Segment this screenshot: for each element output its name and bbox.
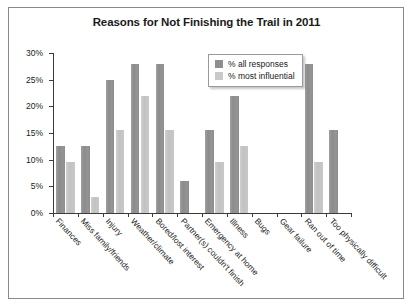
- bar: [230, 96, 239, 213]
- x-axis-tick: [351, 213, 352, 217]
- bar: [106, 80, 115, 213]
- bar: [116, 130, 125, 213]
- x-axis-category-label: Weather/climate: [129, 216, 177, 267]
- y-axis-tick: 15%: [49, 133, 53, 134]
- y-axis-tick-label: 10%: [26, 155, 43, 165]
- legend-swatch-icon: [215, 72, 223, 80]
- x-axis-category-label: Bugs: [253, 216, 273, 237]
- y-axis-tick: 10%: [49, 160, 53, 161]
- bar: [66, 162, 75, 213]
- chart-legend: % all responses % most influential: [208, 54, 303, 87]
- y-axis-tick: 25%: [49, 80, 53, 81]
- bar: [205, 130, 214, 213]
- bar: [81, 146, 90, 213]
- y-axis-tick: 20%: [49, 106, 53, 107]
- legend-item-all-responses: % all responses: [215, 59, 295, 69]
- x-axis-labels: FinancesMiss family/friendsInjuryWeather…: [53, 216, 351, 304]
- y-axis-tick-label: 5%: [31, 181, 43, 191]
- bar: [329, 130, 338, 213]
- x-axis-category-label: Illness: [228, 216, 251, 240]
- chart-title: Reasons for Not Finishing the Trail in 2…: [0, 16, 413, 28]
- bar: [165, 130, 174, 213]
- y-axis: [53, 53, 54, 213]
- y-axis-tick-label: 15%: [26, 128, 43, 138]
- bar: [180, 181, 189, 213]
- bar: [240, 146, 249, 213]
- bar: [131, 64, 140, 213]
- bar: [314, 162, 323, 213]
- chart-figure: Reasons for Not Finishing the Trail in 2…: [0, 0, 413, 307]
- legend-swatch-icon: [215, 60, 223, 68]
- legend-label: % all responses: [228, 59, 288, 69]
- bar: [56, 146, 65, 213]
- y-axis-tick: 30%: [49, 53, 53, 54]
- y-axis-tick-label: 30%: [26, 48, 43, 58]
- bar: [305, 64, 314, 213]
- x-axis-category-label: Injury: [104, 216, 125, 238]
- y-axis-tick-label: 25%: [26, 75, 43, 85]
- plot-area: 0%5%10%15%20%25%30%: [53, 53, 351, 213]
- y-axis-tick: 5%: [49, 186, 53, 187]
- bar: [156, 64, 165, 213]
- bar: [215, 162, 224, 213]
- legend-label: % most influential: [228, 71, 295, 81]
- bar: [91, 197, 100, 213]
- bar: [141, 96, 150, 213]
- y-axis-tick-label: 20%: [26, 101, 43, 111]
- y-axis-tick-label: 0%: [31, 208, 43, 218]
- legend-item-most-influential: % most influential: [215, 71, 295, 81]
